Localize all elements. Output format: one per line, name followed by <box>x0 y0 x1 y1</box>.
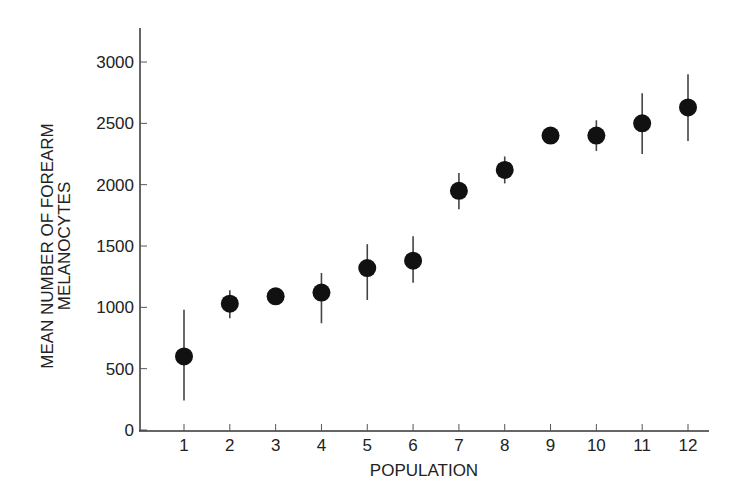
data-point <box>633 93 651 154</box>
x-axis-title: POPULATION <box>370 461 478 480</box>
x-tick-label: 1 <box>179 436 188 455</box>
point-marker <box>221 295 239 313</box>
x-tick-label: 2 <box>225 436 234 455</box>
x-tick-label: 8 <box>500 436 509 455</box>
point-marker <box>542 127 560 145</box>
y-tick-label: 3000 <box>96 53 134 72</box>
y-axis: 050010001500200025003000 <box>96 28 147 440</box>
data-point <box>175 310 193 401</box>
x-tick-label: 12 <box>679 436 698 455</box>
data-point <box>267 287 285 305</box>
y-tick-label: 2000 <box>96 176 134 195</box>
point-marker <box>450 182 468 200</box>
x-tick-label: 4 <box>317 436 326 455</box>
point-marker <box>404 252 422 270</box>
point-marker <box>358 259 376 277</box>
x-axis: 123456789101112 <box>139 424 709 455</box>
x-ticks: 123456789101112 <box>179 424 697 455</box>
x-tick-label: 11 <box>633 436 651 455</box>
scatter-chart: 050010001500200025003000 123456789101112… <box>0 0 743 504</box>
data-point <box>496 156 514 183</box>
point-marker <box>633 114 651 132</box>
data-points <box>175 74 697 400</box>
point-marker <box>267 287 285 305</box>
x-tick-label: 3 <box>271 436 280 455</box>
data-point <box>587 120 605 151</box>
data-point <box>358 244 376 300</box>
data-point <box>450 173 468 209</box>
data-point <box>542 127 560 145</box>
y-tick-label: 1500 <box>96 237 134 256</box>
y-tick-label: 0 <box>125 421 134 440</box>
x-tick-label: 5 <box>363 436 372 455</box>
x-tick-label: 10 <box>587 436 606 455</box>
data-point <box>221 290 239 318</box>
point-marker <box>496 161 514 179</box>
data-point <box>312 273 330 323</box>
y-tick-label: 2500 <box>96 114 134 133</box>
point-marker <box>679 98 697 116</box>
y-tick-label: 1000 <box>96 298 134 317</box>
y-axis-title-line-2: MELANOCYTES <box>55 182 74 310</box>
data-point <box>404 236 422 283</box>
y-axis-title: MEAN NUMBER OF FOREARM MELANOCYTES <box>38 123 74 369</box>
x-tick-label: 7 <box>454 436 463 455</box>
y-tick-label: 500 <box>106 360 134 379</box>
point-marker <box>312 284 330 302</box>
point-marker <box>175 347 193 365</box>
x-tick-label: 9 <box>546 436 555 455</box>
data-point <box>679 74 697 141</box>
x-tick-label: 6 <box>408 436 417 455</box>
point-marker <box>587 127 605 145</box>
